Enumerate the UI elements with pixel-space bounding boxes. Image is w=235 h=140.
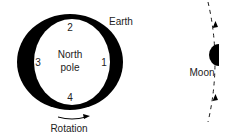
moon-label: Moon bbox=[189, 67, 214, 78]
earth-label: Earth bbox=[109, 16, 133, 27]
position-2: 2 bbox=[67, 22, 73, 33]
position-1: 1 bbox=[101, 57, 107, 68]
north-pole-label-line1: North bbox=[58, 49, 82, 60]
position-4: 4 bbox=[67, 92, 73, 103]
orbit-arrow-lower-icon bbox=[213, 94, 219, 101]
north-pole-label-line2: pole bbox=[61, 62, 80, 73]
rotation-arrow-icon bbox=[58, 114, 90, 119]
moon bbox=[209, 44, 219, 66]
orbit-arrow-upper-icon bbox=[213, 21, 219, 28]
rotation-label: Rotation bbox=[50, 123, 87, 134]
earth-moon-diagram: Earth North pole 1 2 3 4 Rotation Moon bbox=[0, 0, 235, 140]
position-3: 3 bbox=[35, 57, 41, 68]
